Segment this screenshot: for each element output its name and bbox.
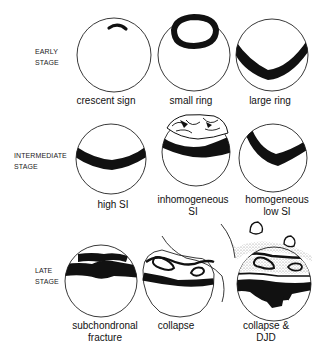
caption-line2: fracture: [72, 332, 138, 344]
caption-crescent-sign: crescent sign: [77, 95, 136, 107]
caption-line1: high SI: [97, 199, 128, 211]
femoral-head-subchondral-fracture: [64, 245, 140, 317]
caption-line1: crescent sign: [77, 95, 136, 107]
caption-line2: SI: [157, 206, 228, 218]
stage-label-line2: STAGE: [35, 57, 59, 68]
stage-label-line2: STAGE: [35, 276, 59, 287]
caption-line1: small ring: [170, 95, 213, 107]
femoral-head-high-si: [74, 124, 148, 194]
caption-line1: collapse &: [243, 320, 289, 332]
femoral-head-crescent-sign: [77, 18, 151, 92]
caption-line2: low SI: [245, 206, 308, 218]
caption-inhomogeneous-si: inhomogeneous SI: [157, 194, 228, 218]
stage-label-line1: INTERMEDIATE: [14, 150, 67, 161]
femoral-head-homogeneous-low-si: [239, 124, 310, 192]
femoral-head-large-ring: [234, 19, 312, 91]
caption-collapse: collapse: [158, 320, 195, 332]
caption-line2: DJD: [243, 332, 289, 344]
stage-label-line1: EARLY: [35, 46, 59, 57]
caption-line1: large ring: [249, 95, 291, 107]
caption-subchondral-fracture: subchondronal fracture: [72, 320, 138, 344]
stage-label-early: EARLY STAGE: [35, 46, 59, 68]
caption-large-ring: large ring: [249, 95, 291, 107]
stage-label-late: LATE STAGE: [35, 265, 59, 287]
caption-collapse-djd: collapse & DJD: [243, 320, 289, 344]
caption-homogeneous-low-si: homogeneous low SI: [245, 194, 308, 218]
femoral-head-collapse-djd: [221, 222, 312, 321]
femoral-head-collapse: [140, 236, 224, 317]
stage-label-line2: STAGE: [14, 161, 67, 172]
caption-line1: subchondronal: [72, 320, 138, 332]
femoral-head-inhomogeneous-si: [162, 115, 232, 186]
stage-label-line1: LATE: [35, 265, 59, 276]
caption-line1: inhomogeneous: [157, 194, 228, 206]
caption-line1: homogeneous: [245, 194, 308, 206]
femoral-head-small-ring: [158, 17, 230, 91]
stage-label-intermediate: INTERMEDIATE STAGE: [14, 150, 67, 172]
caption-line1: collapse: [158, 320, 195, 332]
caption-high-si: high SI: [97, 199, 128, 211]
caption-small-ring: small ring: [170, 95, 213, 107]
